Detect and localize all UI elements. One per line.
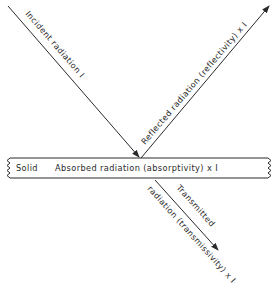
slab-left-break-icon xyxy=(7,158,10,178)
reflected-radiation-label: Reflected radiation (reflectivity) x I xyxy=(139,20,249,147)
radiation-diagram: Solid Absorbed radiation (absorptivity) … xyxy=(0,0,279,290)
incident-arrow-icon xyxy=(8,6,139,157)
transmitted-ray: Transmitted radiation (transmissivity) x… xyxy=(146,180,239,285)
incident-radiation-label: Incident radiation I xyxy=(23,9,86,80)
reflected-ray: Reflected radiation (reflectivity) x I xyxy=(139,6,269,158)
solid-label: Solid xyxy=(16,163,38,173)
reflected-arrow-icon xyxy=(141,6,269,158)
solid-slab: Solid Absorbed radiation (absorptivity) … xyxy=(7,158,271,178)
absorbed-radiation-label: Absorbed radiation (absorptivity) x I xyxy=(55,163,218,173)
incident-ray: Incident radiation I xyxy=(8,6,139,157)
slab-right-break-icon xyxy=(268,158,271,178)
